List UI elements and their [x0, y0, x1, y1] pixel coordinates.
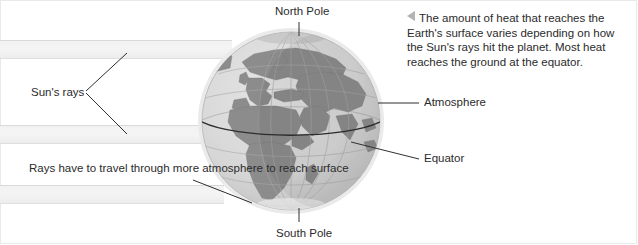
diagram-canvas: North Pole South Pole Sun's rays Atmosph…	[0, 0, 638, 245]
label-north-pole: North Pole	[275, 4, 329, 18]
triangle-left-icon	[407, 11, 415, 21]
label-atmosphere: Atmosphere	[424, 95, 486, 109]
label-equator: Equator	[424, 151, 464, 165]
caption-block: The amount of heat that reaches the Eart…	[407, 11, 633, 69]
label-south-pole: South Pole	[276, 226, 332, 240]
label-rays-travel: Rays have to travel through more atmosph…	[29, 161, 349, 176]
middle-ray-band	[0, 125, 228, 144]
lower-ray-band	[0, 185, 224, 204]
label-suns-rays: Sun's rays	[31, 85, 84, 99]
limb-shading	[258, 33, 386, 209]
earth-globe	[196, 28, 386, 214]
caption-text: The amount of heat that reaches the Eart…	[407, 12, 614, 68]
